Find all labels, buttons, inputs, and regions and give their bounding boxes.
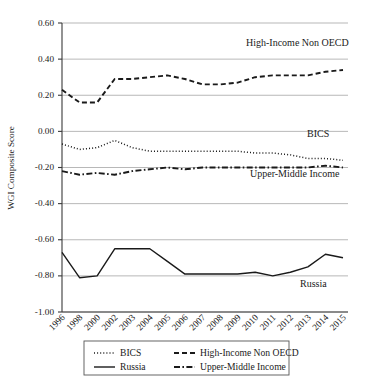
y-tick-label: 0.20: [38, 90, 54, 100]
legend-label-high-income-non-oecd: High-Income Non OECD: [200, 347, 299, 358]
y-tick-label: -0.40: [35, 198, 55, 208]
wgi-composite-score-line-chart: 0.600.400.200.00-0.20-0.40-0.60-0.80-1.0…: [0, 0, 371, 386]
y-axis-title: WGI Composite Score: [6, 126, 16, 210]
y-tick-label: -0.80: [35, 270, 55, 280]
series-annotation-label: High-Income Non OECD: [246, 37, 349, 48]
legend-label-russia: Russia: [120, 361, 146, 372]
legend-label-upper-middle-income: Upper-Middle Income: [200, 361, 286, 372]
y-tick-label: 0.60: [38, 18, 54, 28]
y-tick-label: -0.20: [35, 162, 55, 172]
chart-container: 0.600.400.200.00-0.20-0.40-0.60-0.80-1.0…: [0, 0, 371, 386]
series-annotation-label: Upper-Middle Income: [250, 168, 340, 179]
series-annotation-label: BICS: [307, 128, 329, 139]
y-tick-label: 0.00: [38, 126, 54, 136]
y-axis-tick-labels: 0.600.400.200.00-0.20-0.40-0.60-0.80-1.0…: [35, 18, 55, 317]
y-tick-label: -0.60: [35, 234, 55, 244]
y-tick-label: -1.00: [35, 307, 55, 317]
series-annotation-label: Russia: [300, 278, 327, 289]
y-tick-label: 0.40: [38, 54, 54, 64]
legend-label-bics: BICS: [120, 347, 141, 358]
